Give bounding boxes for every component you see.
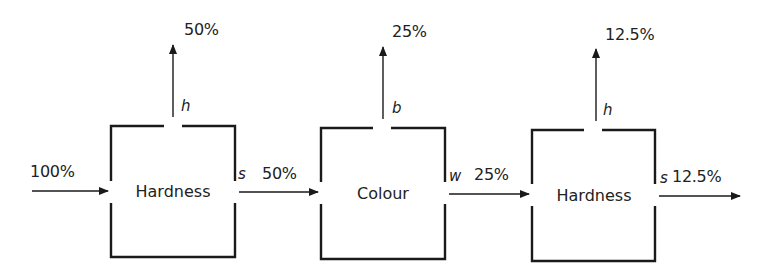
stage-1-side-stream: s	[238, 165, 246, 183]
stage-1-top-output: 50%	[184, 20, 219, 39]
stage-3-side-stream: s	[660, 169, 668, 187]
stage-3-top-stream: h	[603, 101, 613, 119]
stage-1-name: Hardness	[113, 182, 233, 201]
stage-2-top-stream: b	[392, 99, 402, 117]
stage-3-name: Hardness	[534, 186, 654, 205]
stage-2-name: Colour	[323, 184, 443, 203]
stage-1-top-stream: h	[181, 97, 191, 115]
stage-2-side-output: 25%	[474, 165, 509, 184]
flow-diagram-canvas	[0, 0, 772, 275]
stage-2-side-stream: w	[449, 167, 461, 185]
input-percentage: 100%	[30, 162, 75, 181]
stage-3-side-output: 12.5%	[672, 167, 721, 186]
stage-1-side-output: 50%	[262, 164, 297, 183]
stage-3-top-output: 12.5%	[605, 25, 654, 44]
stage-2-top-output: 25%	[392, 22, 427, 41]
